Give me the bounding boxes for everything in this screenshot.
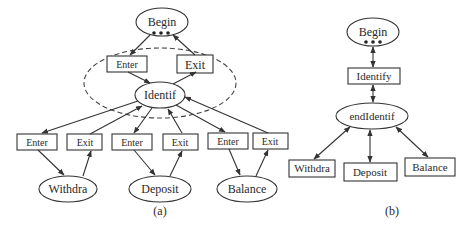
balance-label: Balance (412, 161, 448, 173)
edge-deposit-exit-identif (168, 109, 182, 133)
edge-identif-balance-enter (176, 105, 225, 132)
deposit-enter-box: Enter (112, 134, 152, 150)
identif-node: Identif (135, 82, 185, 108)
begin-node-a: Begin (136, 8, 188, 36)
caption-a: (a) (153, 204, 166, 218)
edge-begin-enter (130, 35, 150, 55)
begin-label-b: Begin (359, 25, 388, 39)
deposit-box-b: Deposit (344, 163, 397, 181)
enter-label: Enter (217, 136, 239, 147)
edge-exit-begin (173, 35, 195, 55)
withdra-box-b: Withdra (289, 160, 335, 177)
balance-enter-box: Enter (208, 133, 248, 149)
edge-enter-deposit (134, 150, 155, 175)
caption-b: (b) (385, 204, 399, 218)
edge-enter-withdra (38, 150, 64, 175)
edge-enter-balance (229, 149, 240, 175)
end-identif-node: endIdentif (336, 103, 408, 129)
exit-label: Exit (77, 137, 94, 148)
exit-label: Exit (185, 58, 206, 72)
enter-label: Enter (26, 137, 48, 148)
edge-enter-identif (128, 72, 150, 83)
edge-withdra-exit (83, 151, 91, 176)
edge-endidentif-withdra (314, 127, 350, 159)
deposit-exit-box: Exit (163, 134, 198, 150)
begin-label-a: Begin (148, 15, 177, 29)
identify-label: Identify (357, 70, 392, 82)
exit-box-top: Exit (177, 55, 213, 73)
edge-withdra-exit-identif (90, 106, 142, 134)
withdra-label: Withdra (49, 182, 89, 196)
balance-label: Balance (228, 182, 267, 196)
withdra-node-a: Withdra (39, 176, 97, 202)
edge-identif-withdra-enter (42, 101, 138, 133)
identif-label: Identif (144, 88, 176, 102)
identify-box: Identify (348, 68, 400, 84)
ellipsis-dot (364, 40, 368, 44)
diagram-a: Begin Enter Exit Identif Enter (17, 8, 288, 218)
ellipsis-dot (166, 31, 170, 35)
withdra-label: Withdra (294, 162, 330, 174)
deposit-node-a: Deposit (129, 176, 191, 202)
balance-node-a: Balance (217, 176, 277, 202)
enter-label: Enter (121, 137, 143, 148)
withdra-exit-box: Exit (67, 134, 102, 150)
diagram-b: Begin Identify endIdentif Withdra Deposi… (289, 18, 455, 218)
deposit-label: Deposit (353, 166, 387, 178)
ellipsis-dot (152, 31, 156, 35)
state-diagram-canvas: Begin Enter Exit Identif Enter (0, 0, 471, 231)
edge-identif-deposit-enter (134, 108, 152, 133)
begin-node-b: Begin (347, 18, 399, 46)
balance-box-b: Balance (405, 158, 455, 176)
edge-endidentif-balance (396, 127, 428, 157)
edge-identif-exit (173, 72, 196, 84)
end-identif-label: endIdentif (349, 110, 395, 122)
enter-label: Enter (116, 59, 138, 70)
balance-exit-box: Exit (253, 133, 288, 149)
enter-box-top: Enter (107, 56, 147, 72)
deposit-label: Deposit (141, 182, 179, 196)
edge-balance-exit-identif (185, 97, 268, 133)
edge-deposit-exit (170, 151, 182, 176)
withdra-enter-box: Enter (17, 134, 57, 150)
ellipsis-dot (378, 40, 382, 44)
exit-label: Exit (172, 137, 189, 148)
ellipsis-dot (159, 31, 163, 35)
ellipsis-dot (371, 40, 375, 44)
edge-balance-exit (256, 150, 268, 176)
exit-label: Exit (262, 136, 279, 147)
